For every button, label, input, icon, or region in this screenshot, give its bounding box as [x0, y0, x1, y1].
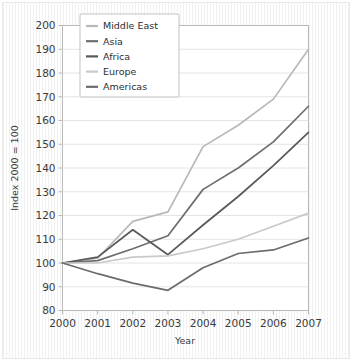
x-tick-label: 2003 [155, 317, 182, 329]
x-tick-label: 2004 [190, 317, 217, 329]
y-tick-label: 150 [35, 138, 55, 150]
y-tick-label: 200 [35, 19, 55, 31]
x-tick-label: 2007 [295, 317, 322, 329]
x-tick-label: 2005 [225, 317, 252, 329]
y-tick-label: 120 [35, 209, 55, 221]
y-tick-label: 100 [35, 257, 55, 269]
y-tick-label: 110 [35, 233, 55, 245]
y-tick-label: 160 [35, 114, 55, 126]
chart-figure: 8090100110120130140150160170180190200 20… [0, 0, 352, 361]
legend-label-middle-east: Middle East [103, 20, 158, 31]
x-axis-title: Year [174, 335, 195, 346]
y-tick-label: 170 [35, 91, 55, 103]
y-tick-label: 80 [42, 304, 55, 316]
x-tick-label: 2000 [49, 317, 76, 329]
y-axis-ticks [59, 26, 63, 311]
x-axis-tick-labels: 20002001200220032004200520062007 [49, 317, 322, 329]
y-tick-label: 140 [35, 162, 55, 174]
series-line-americas [63, 238, 309, 290]
y-axis-tick-labels: 8090100110120130140150160170180190200 [35, 19, 55, 316]
y-tick-label: 180 [35, 67, 55, 79]
y-axis-title: Index 2000 = 100 [9, 125, 20, 210]
legend-label-europe: Europe [103, 66, 137, 77]
y-tick-label: 190 [35, 43, 55, 55]
x-tick-label: 2006 [260, 317, 287, 329]
y-tick-label: 90 [42, 281, 55, 293]
y-tick-label: 130 [35, 186, 55, 198]
chart-legend: Middle EastAsiaAfricaEuropeAmericas [80, 14, 179, 97]
x-tick-label: 2002 [119, 317, 146, 329]
legend-label-africa: Africa [103, 51, 130, 62]
legend-label-asia: Asia [103, 36, 123, 47]
line-chart: 8090100110120130140150160170180190200 20… [0, 0, 352, 361]
x-axis-tick-marks [63, 311, 309, 315]
legend-label-americas: Americas [103, 81, 147, 92]
x-tick-label: 2001 [84, 317, 111, 329]
series-line-africa [63, 132, 309, 263]
